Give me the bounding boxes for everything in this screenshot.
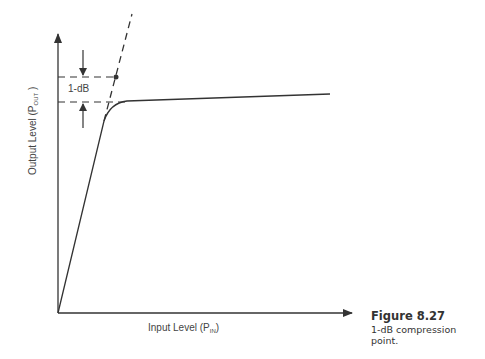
x-axis-label-main: Input Level (P xyxy=(148,322,210,333)
output-response-curve xyxy=(58,94,330,313)
x-axis-label: Input Level (PIN) xyxy=(148,322,219,334)
figure-caption: Figure 8.27 1-dB compression point. xyxy=(371,309,485,346)
ideal-linear-dashed-line xyxy=(104,14,132,121)
y-axis-label-main: Output Level (P xyxy=(27,106,38,175)
x-axis-label-end: ) xyxy=(216,322,219,333)
compression-point-dot xyxy=(114,75,119,80)
compression-diagram xyxy=(0,0,485,359)
one-db-label: 1-dB xyxy=(68,83,89,94)
figure-description: 1-dB compression point. xyxy=(371,324,485,346)
y-axis-label-end: ) xyxy=(27,87,38,93)
y-axis-label-sub: OUT xyxy=(33,93,39,106)
figure-number: Figure 8.27 xyxy=(371,309,485,323)
y-axis-label: Output Level (POUT ) xyxy=(27,87,39,175)
